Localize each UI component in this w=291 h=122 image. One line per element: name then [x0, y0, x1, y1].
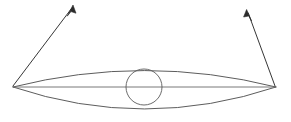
upper-arc-path — [13, 71, 276, 88]
diagram-canvas: Lens-shaped ellipse diagram with central… — [0, 0, 291, 122]
left-arrow-shaft — [13, 9, 72, 87]
left-arrowhead-icon — [67, 5, 76, 16]
right-arrow-shaft — [248, 13, 275, 86]
lower-arc-path — [13, 87, 276, 109]
right-arrowhead-icon — [244, 10, 252, 22]
diagram-svg: Lens-shaped ellipse diagram with central… — [0, 0, 291, 122]
